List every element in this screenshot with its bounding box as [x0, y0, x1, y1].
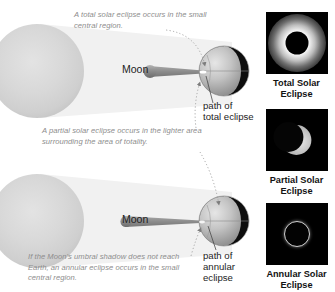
- path-of-annular-eclipse-label: path of annular eclipse: [203, 250, 259, 283]
- path-of-total-eclipse-label: path of total eclipse: [203, 100, 263, 122]
- annular-solar-eclipse-photo: [266, 203, 328, 265]
- total-solar-eclipse-photo: [266, 12, 328, 74]
- lunar-disk: [285, 32, 308, 55]
- caption-annular-eclipse: If the Moon's umbral shadow does not rea…: [28, 252, 208, 284]
- crescent-shape: [281, 125, 311, 155]
- partial-solar-eclipse-photo: [266, 109, 328, 171]
- photo-item-partial: Partial Solar Eclipse: [258, 109, 335, 196]
- crescent-moon-mask: [273, 122, 303, 152]
- annular-solar-eclipse-caption: Annular Solar Eclipse: [258, 269, 335, 290]
- antumbra-spot-bottom: [199, 221, 205, 224]
- totality-spot-top: [200, 71, 207, 74]
- total-solar-eclipse-caption: Total Solar Eclipse: [258, 78, 335, 99]
- partial-solar-eclipse-caption: Partial Solar Eclipse: [258, 175, 335, 196]
- eclipse-photo-column: Total Solar Eclipse Partial Solar Eclips…: [258, 0, 335, 292]
- ring-of-fire: [284, 221, 310, 247]
- moon-label-top: Moon: [122, 64, 148, 75]
- photo-item-annular: Annular Solar Eclipse: [258, 203, 335, 290]
- moon-label-bottom: Moon: [122, 214, 148, 225]
- caption-partial-eclipse: A partial solar eclipse occurs in the li…: [42, 126, 227, 147]
- caption-total-eclipse: A total solar eclipse occurs in the smal…: [74, 10, 234, 31]
- photo-item-total: Total Solar Eclipse: [258, 12, 335, 99]
- eclipse-figure: A total solar eclipse occurs in the smal…: [0, 0, 335, 292]
